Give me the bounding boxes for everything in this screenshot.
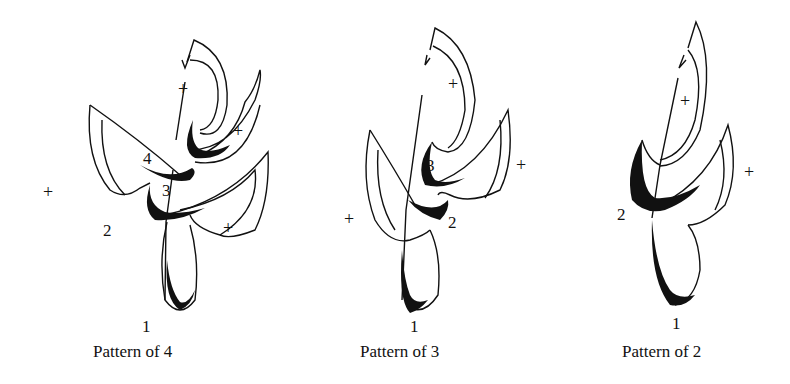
pattern-of-4-figure: 4 3 2 1 + + + + Pattern of 4 xyxy=(30,0,270,384)
beat-label-2: 2 xyxy=(617,206,626,223)
beat-label-4: 4 xyxy=(143,150,152,167)
pattern-of-3-diagram xyxy=(330,0,550,384)
plus-mark: + xyxy=(516,156,526,174)
plus-mark: + xyxy=(344,210,354,228)
beat-label-1: 1 xyxy=(672,315,681,332)
plus-mark: + xyxy=(680,92,690,110)
pattern-of-2-diagram xyxy=(600,0,790,384)
plus-mark: + xyxy=(43,183,53,201)
plus-mark: + xyxy=(178,80,188,98)
plus-mark: + xyxy=(448,75,458,93)
pattern-of-2-figure: 2 1 + + Pattern of 2 xyxy=(600,0,790,384)
plus-mark: + xyxy=(223,219,233,237)
beat-label-3: 3 xyxy=(426,157,435,174)
plus-mark: + xyxy=(233,122,243,140)
caption-pattern-of-2: Pattern of 2 xyxy=(622,342,701,362)
beat-label-2: 2 xyxy=(103,222,112,239)
beat-label-1: 1 xyxy=(410,318,419,335)
caption-pattern-of-4: Pattern of 4 xyxy=(93,342,172,362)
plus-mark: + xyxy=(744,163,754,181)
pattern-of-3-figure: 3 2 1 + + + Pattern of 3 xyxy=(330,0,550,384)
caption-pattern-of-3: Pattern of 3 xyxy=(360,342,439,362)
beat-label-2: 2 xyxy=(448,214,457,231)
beat-label-1: 1 xyxy=(142,318,151,335)
beat-label-3: 3 xyxy=(162,182,171,199)
